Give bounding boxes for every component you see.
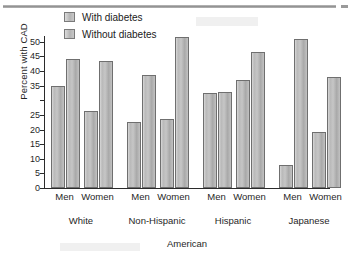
y-axis-tick: [40, 86, 44, 87]
y-axis-tick: [40, 188, 44, 189]
y-axis-tick-label: 10: [14, 155, 40, 164]
y-axis-tick-label: 15: [14, 140, 40, 149]
y-axis-tick: [40, 173, 44, 174]
y-axis-tick-label: 45: [14, 52, 40, 61]
bar: [160, 119, 174, 188]
bar: [236, 80, 250, 188]
x-axis-group-label: Japanese: [264, 216, 350, 226]
x-axis-title: American: [44, 238, 330, 249]
page-divider-rule: [3, 5, 336, 8]
bar: [175, 37, 189, 188]
y-axis-tick-label: 0: [14, 184, 40, 193]
y-axis-tick: [40, 56, 44, 57]
y-axis-tick: [40, 71, 44, 72]
x-axis-sex-labels: MenWomenMenWomenMenWomenMenWomen: [44, 192, 334, 206]
y-axis-tick-label: 35: [14, 82, 40, 91]
y-axis-tick-labels: 504540352520151050: [14, 36, 40, 188]
legend-label: With diabetes: [82, 11, 143, 24]
y-axis-tick: [40, 115, 44, 116]
y-axis-tick: [40, 130, 44, 131]
y-axis-tick-label: 40: [14, 67, 40, 76]
bar: [251, 52, 265, 188]
legend-swatch-icon: [64, 12, 75, 22]
bar: [279, 165, 293, 188]
bar: [294, 39, 308, 188]
x-axis-sex-label: Women: [76, 192, 120, 202]
bar: [66, 59, 80, 188]
y-axis-tick: [40, 159, 44, 160]
page-divider-endcap: [341, 5, 348, 8]
plot-area: [44, 36, 330, 188]
bar-series-container: [45, 36, 330, 188]
bar: [312, 132, 326, 188]
y-axis-tick-label: 20: [14, 126, 40, 135]
scan-artifact: [196, 17, 258, 26]
y-axis-tick: [40, 144, 44, 145]
y-axis-tick: [40, 42, 44, 43]
y-axis-tick-label: 25: [14, 111, 40, 120]
bar: [327, 77, 341, 188]
x-axis-group-labels: WhiteNon-HispanicHispanicJapanese: [44, 216, 334, 230]
bar: [84, 111, 98, 188]
bar: [142, 75, 156, 188]
x-axis-sex-label: Women: [152, 192, 196, 202]
bar: [51, 86, 65, 188]
chart-figure: With diabetes Without diabetes Percent w…: [0, 0, 350, 259]
x-axis-line: [44, 188, 330, 189]
bar: [127, 122, 141, 188]
bar: [218, 92, 232, 188]
y-axis-tick-label: 50: [14, 38, 40, 47]
y-axis-tick-label: 5: [14, 169, 40, 178]
bar: [99, 61, 113, 188]
x-axis-sex-label: Women: [228, 192, 272, 202]
y-axis-tick: [40, 100, 44, 101]
x-axis-sex-label: Women: [304, 192, 348, 202]
bar: [203, 93, 217, 188]
